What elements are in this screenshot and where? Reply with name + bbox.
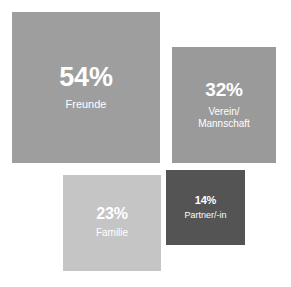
chart-square-familie[interactable]: 23% Familie — [63, 175, 161, 271]
chart-square-value: 32% — [205, 80, 242, 99]
chart-square-label-line2: Mannschaft — [198, 118, 250, 130]
chart-square-verein-mannschaft[interactable]: 32% Verein/ Mannschaft — [172, 47, 276, 163]
chart-square-label: Freunde — [66, 98, 107, 111]
chart-square-partner[interactable]: 14% Partner/-in — [166, 170, 245, 245]
chart-square-label-line1: Partner/-in — [184, 210, 226, 221]
proportional-area-chart: 54% Freunde 32% Verein/ Mannschaft 23% F… — [0, 0, 291, 287]
chart-square-label: Familie — [96, 227, 128, 239]
chart-square-label: Partner/-in — [184, 210, 226, 221]
chart-square-value: 14% — [195, 195, 216, 206]
chart-square-freunde[interactable]: 54% Freunde — [12, 12, 160, 163]
chart-square-label-line1: Familie — [96, 227, 128, 239]
chart-square-value: 54% — [59, 64, 112, 91]
chart-square-value: 23% — [96, 206, 127, 222]
chart-square-label-line1: Freunde — [66, 98, 107, 111]
chart-square-label: Verein/ Mannschaft — [198, 106, 250, 130]
chart-square-label-line1: Verein/ — [198, 106, 250, 118]
